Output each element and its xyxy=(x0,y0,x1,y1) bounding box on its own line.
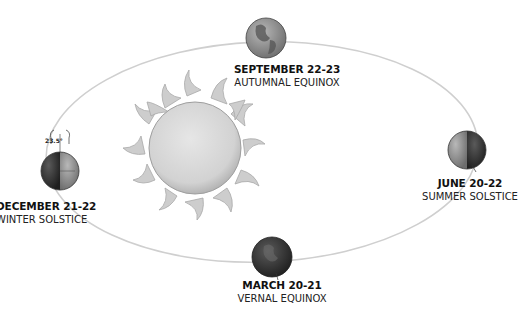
label-september: SEPTEMBER 22-23 AUTUMNAL EQUINOX xyxy=(227,63,347,89)
date-label: MARCH 20-21 xyxy=(232,279,332,292)
label-december: DECEMBER 21-22 WINTER SOLSTICE xyxy=(0,200,76,226)
label-march: MARCH 20-21 VERNAL EQUINOX xyxy=(232,279,332,305)
date-label: DECEMBER 21-22 xyxy=(0,200,76,213)
sun-disk xyxy=(149,102,241,194)
event-label: WINTER SOLSTICE xyxy=(0,213,76,226)
orbit-diagram xyxy=(0,0,531,322)
date-label: JUNE 20-22 xyxy=(420,177,520,190)
earth-june-icon xyxy=(448,131,486,172)
label-june: JUNE 20-22 SUMMER SOLSTICE xyxy=(420,177,520,203)
event-label: VERNAL EQUINOX xyxy=(232,292,332,305)
earth-march-icon xyxy=(252,237,292,280)
event-label: AUTUMNAL EQUINOX xyxy=(227,76,347,89)
event-label: SUMMER SOLSTICE xyxy=(420,190,520,203)
date-label: SEPTEMBER 22-23 xyxy=(227,63,347,76)
tilt-angle-label: 23.5° xyxy=(45,137,63,144)
earth-september-icon xyxy=(246,18,286,58)
sun-icon xyxy=(123,70,265,220)
